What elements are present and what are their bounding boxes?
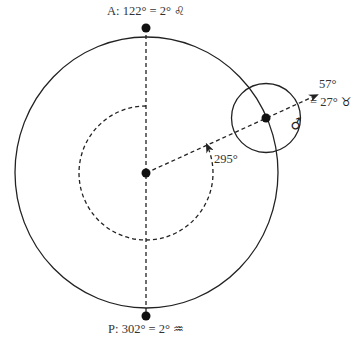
mars-icon: ♂: [288, 114, 305, 133]
planet-longitude-label: 57°: [319, 77, 337, 91]
aphelion-prefix: A:: [107, 4, 120, 18]
planet-dot: [262, 114, 271, 123]
aquarius-icon: ♒: [173, 322, 184, 336]
perihelion-longitude: 302°: [122, 322, 146, 336]
perihelion-prefix: P:: [108, 322, 118, 336]
perihelion-label: P: 302° = 2° ♒: [108, 322, 184, 336]
arc-angle-label: 295°: [214, 152, 238, 166]
aphelion-longitude: 122°: [123, 4, 147, 18]
center-dot: [142, 169, 151, 178]
aphelion-sign-degree: 2°: [160, 4, 171, 18]
taurus-icon: ♉: [341, 95, 352, 109]
aphelion-dot: [142, 24, 151, 33]
orbit-diagram: A: 122° = 2° ♌ P: 302° = 2° ♒ 57° = 27° …: [0, 0, 360, 345]
leo-icon: ♌: [174, 4, 185, 18]
planet-sign-text: = 27°: [310, 95, 338, 109]
perihelion-sign-degree: 2°: [159, 322, 170, 336]
aphelion-equals: =: [150, 4, 157, 18]
perihelion-equals: =: [149, 322, 156, 336]
perihelion-dot: [142, 312, 151, 321]
planet-sign-label: = 27° ♉: [310, 95, 352, 109]
aphelion-label: A: 122° = 2° ♌: [107, 4, 185, 18]
